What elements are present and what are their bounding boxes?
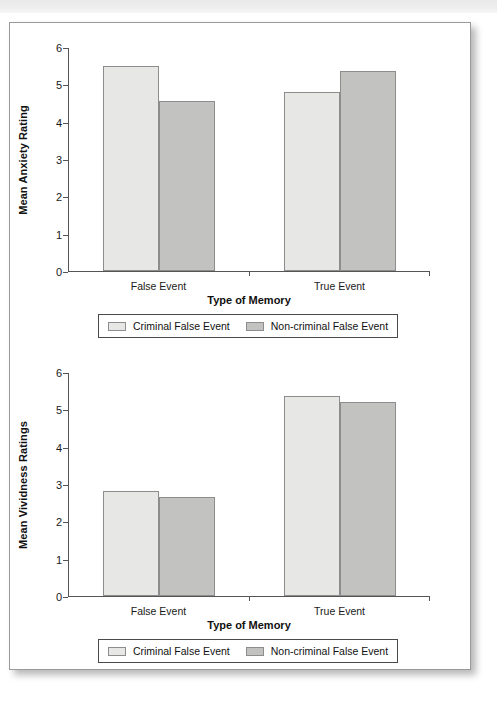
legend-item-criminal: Criminal False Event xyxy=(108,320,230,332)
legend-label-criminal: Criminal False Event xyxy=(133,645,230,657)
legend-vividness: Criminal False Event Non-criminal False … xyxy=(98,639,398,663)
y-axis-tick-label: 4 xyxy=(42,118,62,129)
y-axis-tick-label: 1 xyxy=(42,230,62,241)
y-axis-tick xyxy=(63,373,68,374)
bar xyxy=(103,491,159,596)
y-axis-title-vividness: Mean Vividness Ratings xyxy=(16,373,30,597)
y-axis-tick xyxy=(63,448,68,449)
legend-anxiety: Criminal False Event Non-criminal False … xyxy=(98,314,398,338)
y-axis-tick xyxy=(63,560,68,561)
y-axis-tick xyxy=(63,485,68,486)
y-axis-title-anxiety: Mean Anxiety Rating xyxy=(16,48,30,272)
legend-label-noncriminal: Non-criminal False Event xyxy=(271,320,388,332)
y-axis-line xyxy=(68,48,69,272)
y-axis-tick xyxy=(63,197,68,198)
y-axis-tick-label: 3 xyxy=(42,155,62,166)
plot-area-anxiety: 0123456False EventTrue Event xyxy=(68,48,430,272)
legend-item-noncriminal: Non-criminal False Event xyxy=(246,645,388,657)
bar xyxy=(340,402,396,596)
y-axis-title-anxiety-text: Mean Anxiety Rating xyxy=(17,105,29,215)
legend-swatch-icon-noncriminal xyxy=(246,647,264,656)
y-axis-tick-label: 0 xyxy=(42,592,62,603)
y-axis-tick-label: 2 xyxy=(42,517,62,528)
legend-item-noncriminal: Non-criminal False Event xyxy=(246,320,388,332)
y-axis-tick xyxy=(63,522,68,523)
legend-label-criminal: Criminal False Event xyxy=(133,320,230,332)
y-axis-title-vividness-text: Mean Vividness Ratings xyxy=(17,421,29,549)
y-axis-tick-label: 5 xyxy=(42,405,62,416)
y-axis-tick-label: 3 xyxy=(42,480,62,491)
bar xyxy=(103,66,159,271)
x-axis-title-vividness: Type of Memory xyxy=(68,619,430,631)
x-axis-tick xyxy=(429,271,430,276)
x-axis-category-label: True Event xyxy=(249,605,430,617)
y-axis-tick xyxy=(63,410,68,411)
y-axis-tick-label: 5 xyxy=(42,80,62,91)
y-axis-tick-label: 1 xyxy=(42,555,62,566)
bar xyxy=(159,101,215,271)
legend-item-criminal: Criminal False Event xyxy=(108,645,230,657)
y-axis-tick-label: 4 xyxy=(42,443,62,454)
plot-area-vividness: 0123456False EventTrue Event xyxy=(68,373,430,597)
y-axis-tick-label: 0 xyxy=(42,267,62,278)
x-axis-category-label: True Event xyxy=(249,280,430,292)
y-axis-tick-label: 2 xyxy=(42,192,62,203)
x-axis-tick xyxy=(429,596,430,601)
legend-swatch-icon-noncriminal xyxy=(246,322,264,331)
legend-label-noncriminal: Non-criminal False Event xyxy=(271,645,388,657)
y-axis-line xyxy=(68,373,69,597)
y-axis-tick xyxy=(63,272,68,273)
bar xyxy=(284,92,340,271)
x-axis-title-anxiety: Type of Memory xyxy=(68,294,430,306)
bar xyxy=(340,71,396,271)
legend-swatch-icon-criminal xyxy=(108,647,126,656)
y-axis-tick xyxy=(63,123,68,124)
bar xyxy=(159,497,215,596)
page-top-band xyxy=(0,0,497,13)
y-axis-tick xyxy=(63,85,68,86)
y-axis-tick xyxy=(63,160,68,161)
x-axis-category-label: False Event xyxy=(68,605,249,617)
x-axis-tick xyxy=(249,596,250,601)
y-axis-tick-label: 6 xyxy=(42,368,62,379)
legend-swatch-icon-criminal xyxy=(108,322,126,331)
y-axis-tick xyxy=(63,597,68,598)
figure-page: Mean Anxiety Rating 0123456False EventTr… xyxy=(9,22,471,670)
y-axis-tick xyxy=(63,48,68,49)
y-axis-tick-label: 6 xyxy=(42,43,62,54)
bar xyxy=(284,396,340,596)
y-axis-tick xyxy=(63,235,68,236)
x-axis-category-label: False Event xyxy=(68,280,249,292)
x-axis-tick xyxy=(249,271,250,276)
